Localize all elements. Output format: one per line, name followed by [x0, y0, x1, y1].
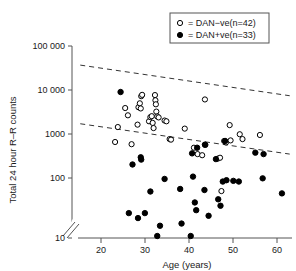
data-point-filled — [192, 200, 197, 205]
data-point-filled — [279, 191, 284, 196]
data-point-filled — [222, 138, 227, 143]
x-tick-label-20: 20 — [96, 245, 106, 255]
data-point-open — [182, 126, 187, 131]
data-point-open — [228, 138, 233, 143]
y-tick-label-10: 10 — [55, 233, 65, 243]
y-tick-label-1000: 1000 — [45, 129, 65, 139]
data-point-filled — [189, 151, 194, 156]
data-point-filled — [206, 213, 211, 218]
data-point-filled — [261, 151, 266, 156]
data-point-filled — [139, 157, 144, 162]
data-point-filled — [218, 203, 223, 208]
data-point-open — [164, 119, 169, 124]
data-point-filled — [130, 162, 135, 167]
legend-filled-circle-icon — [177, 32, 182, 37]
data-point-open — [125, 113, 130, 118]
data-point-filled — [148, 189, 153, 194]
data-point-filled — [190, 174, 195, 179]
data-point-open — [168, 137, 173, 142]
legend-label-dan-positive: = DAN+ve(n=33) — [188, 30, 256, 40]
data-point-filled — [260, 176, 265, 181]
data-point-filled — [155, 233, 160, 238]
data-point-open — [154, 109, 159, 114]
data-point-filled — [162, 176, 167, 181]
data-point-open — [149, 114, 154, 119]
chart-figure: 100 000 10 000 1000 100 10 Total 24 hour… — [0, 0, 296, 271]
data-point-filled — [216, 197, 221, 202]
y-tick-label-10000: 10 000 — [37, 85, 65, 95]
legend-label-dan-negative: = DAN−ve(n=42) — [188, 18, 256, 28]
data-point-open — [219, 188, 224, 193]
data-point-open — [140, 92, 145, 97]
legend: = DAN−ve(n=42) = DAN+ve(n=33) — [170, 13, 269, 43]
data-point-open — [135, 122, 140, 127]
data-point-filled — [202, 142, 207, 147]
data-point-open — [123, 105, 128, 110]
data-point-filled — [157, 223, 162, 228]
data-point-filled — [142, 210, 147, 215]
data-point-open — [138, 106, 143, 111]
data-point-open — [153, 102, 158, 107]
data-point-filled — [135, 215, 140, 220]
data-point-open — [257, 132, 262, 137]
y-tick-label-100: 100 — [50, 173, 65, 183]
legend-open-circle-icon — [177, 20, 182, 25]
y-tick-label-100000: 100 000 — [32, 41, 65, 51]
data-point-open — [152, 92, 157, 97]
data-point-filled — [231, 178, 236, 183]
data-point-open — [129, 142, 134, 147]
y-axis-title: Total 24 hour R–R counts — [7, 96, 18, 203]
x-tick-label-30: 30 — [140, 245, 150, 255]
data-point-filled — [253, 150, 258, 155]
x-tick-label-40: 40 — [184, 245, 194, 255]
data-point-open — [115, 124, 120, 129]
x-axis-title: Age (years) — [162, 259, 211, 270]
data-point-filled — [224, 178, 229, 183]
data-point-open — [202, 97, 207, 102]
data-point-open — [156, 115, 161, 120]
data-point-filled — [236, 179, 241, 184]
data-point-open — [240, 136, 245, 141]
data-point-filled — [213, 156, 218, 161]
data-point-open — [150, 120, 155, 125]
data-point-open — [112, 139, 117, 144]
data-point-open — [137, 101, 142, 106]
data-point-filled — [194, 207, 199, 212]
x-tick-label-60: 60 — [272, 245, 282, 255]
data-point-filled — [188, 233, 193, 238]
scatter-plot-svg: 100 000 10 000 1000 100 10 Total 24 hour… — [0, 0, 296, 271]
data-point-open — [237, 132, 242, 137]
data-point-filled — [179, 221, 184, 226]
data-point-open — [200, 153, 205, 158]
data-point-open — [227, 123, 232, 128]
data-point-filled — [126, 210, 131, 215]
data-point-filled — [202, 187, 207, 192]
data-point-filled — [118, 89, 123, 94]
data-point-filled — [194, 145, 199, 150]
data-point-open — [151, 125, 156, 130]
data-point-filled — [177, 186, 182, 191]
x-tick-label-50: 50 — [228, 245, 238, 255]
